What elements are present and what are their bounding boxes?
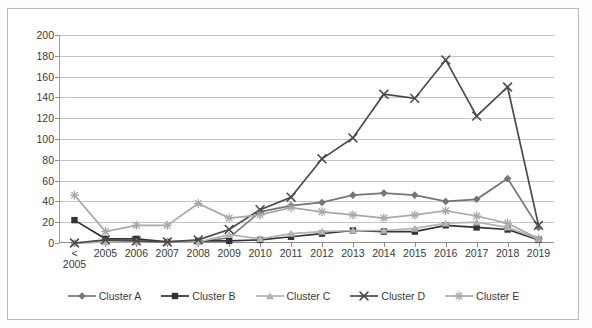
y-tick-label: 80 [20,155,54,166]
data-point [348,210,357,219]
legend-label: Cluster B [192,291,235,302]
data-point [380,189,388,197]
y-tick-label: 160 [20,71,54,82]
data-point [256,210,265,219]
data-point [318,199,326,207]
legend-swatch-square-icon [160,290,190,302]
data-point [132,221,141,230]
y-tick-label: 60 [20,175,54,186]
y-tick-label: 140 [20,92,54,103]
x-tick-label: 2007 [156,248,179,259]
data-point [441,206,450,215]
data-point [349,134,358,143]
series-layer [59,35,554,243]
data-point [318,154,327,163]
y-tick-label: 200 [20,30,54,41]
legend-label: Cluster E [476,291,519,302]
data-point [534,234,543,243]
x-tick-label: 2008 [187,248,210,259]
data-point [101,227,110,236]
y-tick-label: 20 [20,217,54,228]
legend-item-cluster-d[interactable]: Cluster D [349,290,425,302]
legend-label: Cluster A [99,291,142,302]
legend-item-cluster-c[interactable]: Cluster C [255,290,331,302]
x-tick-label: 2012 [310,248,333,259]
x-tick-label: < 2005 [63,248,86,270]
x-tick-label: 2018 [496,248,519,259]
data-point [287,193,296,202]
data-point [379,214,388,223]
x-tick-label: 2014 [372,248,395,259]
legend-swatch-diamond-icon [67,290,97,302]
plot-inner: 020406080100120140160180200 < 2005200520… [59,35,554,243]
x-tick-label: 2019 [527,248,550,259]
series-cluster-d [70,56,543,248]
y-tick-label: 0 [20,238,54,249]
x-tick-label: 2015 [403,248,426,259]
x-tick-label: 2005 [94,248,117,259]
data-point [349,191,357,199]
x-tick-label: 2010 [248,248,271,259]
x-tick-label: 2011 [280,248,303,259]
x-tick-label: 2016 [434,248,457,259]
data-point [503,219,512,228]
legend-item-cluster-a[interactable]: Cluster A [67,290,142,302]
legend-item-cluster-e[interactable]: Cluster E [444,290,519,302]
data-point [442,198,450,206]
data-point [472,211,481,220]
data-point [411,191,419,199]
y-tick-label: 40 [20,196,54,207]
y-tick-mark [55,243,59,244]
legend-swatch-star-icon [444,290,474,302]
chart-frame: 020406080100120140160180200 < 2005200520… [7,8,579,320]
legend-swatch-x-icon [349,290,379,302]
data-point [317,207,326,216]
y-tick-label: 120 [20,113,54,124]
y-tick-label: 100 [20,134,54,145]
data-point [287,203,296,212]
legend-label: Cluster C [287,291,331,302]
data-point [70,191,79,200]
series-cluster-c [70,218,542,246]
plot-area: 020406080100120140160180200 < 2005200520… [59,35,554,243]
data-point [441,56,450,65]
x-tick-label: 2017 [465,248,488,259]
x-tick-label: 2009 [217,248,240,259]
data-point [163,221,172,230]
y-tick-label: 180 [20,51,54,62]
legend-item-cluster-b[interactable]: Cluster B [160,290,235,302]
data-point [194,199,203,208]
data-point [410,210,419,219]
data-point [472,112,481,121]
legend-swatch-triangle-icon [255,290,285,302]
x-tick-label: 2006 [125,248,148,259]
data-point [226,238,232,244]
chart-legend: Cluster ACluster BCluster CCluster DClus… [8,290,578,302]
series-line [74,220,538,242]
series-line [74,60,538,243]
data-point [225,214,234,223]
legend-label: Cluster D [381,291,425,302]
x-tick-label: 2013 [341,248,364,259]
data-point [71,217,77,223]
